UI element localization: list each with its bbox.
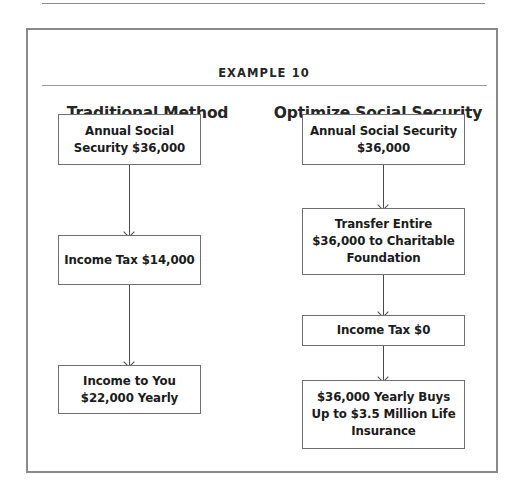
node-traditional-income-tax: Income Tax $14,000 [58,235,201,285]
connector-optimized-2 [383,275,385,315]
connector-optimized-1 [383,165,385,208]
example-title-rule [42,85,487,86]
node-optimized-life-insurance: $36,000 Yearly Buys Up to $3.5 Million L… [302,380,465,449]
connector-optimized-3 [383,346,385,380]
node-traditional-annual-social-security: Annual Social Security $36,000 [58,114,201,165]
connector-traditional-1 [129,165,131,235]
example-title: EXAMPLE 10 [28,66,500,80]
node-optimized-income-tax: Income Tax $0 [302,315,465,346]
connector-traditional-2 [129,285,131,365]
example-frame: EXAMPLE 10 Traditional Method Optimize S… [26,28,498,473]
node-traditional-income-to-you: Income to You $22,000 Yearly [58,365,201,414]
node-optimized-annual-social-security: Annual Social Security $36,000 [302,114,465,165]
page-top-rule [42,3,485,4]
node-optimized-transfer-to-charitable-foundation: Transfer Entire $36,000 to Charitable Fo… [302,208,465,275]
